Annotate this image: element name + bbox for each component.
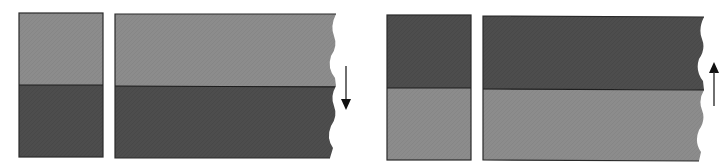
- left-large-bottom-layer-dark: [115, 86, 336, 158]
- right-small-top-layer-dark: [387, 15, 471, 88]
- arrow-up-icon: [709, 62, 719, 106]
- right-large-top-layer-dark: [483, 16, 704, 90]
- right-large-tank: [483, 16, 704, 161]
- right-large-bottom-layer-light: [483, 89, 704, 161]
- layer-diagram: [0, 0, 727, 164]
- left-small-top-layer-light: [19, 13, 103, 85]
- left-small-column: [19, 13, 103, 157]
- panel-left: [19, 13, 351, 158]
- arrow-down-icon: [341, 66, 351, 110]
- left-small-bottom-layer-dark: [19, 85, 103, 157]
- right-small-bottom-layer-light: [387, 88, 471, 160]
- panel-right: [387, 15, 719, 161]
- left-large-tank: [115, 14, 336, 158]
- left-large-top-layer-light: [115, 14, 336, 86]
- right-small-column: [387, 15, 471, 160]
